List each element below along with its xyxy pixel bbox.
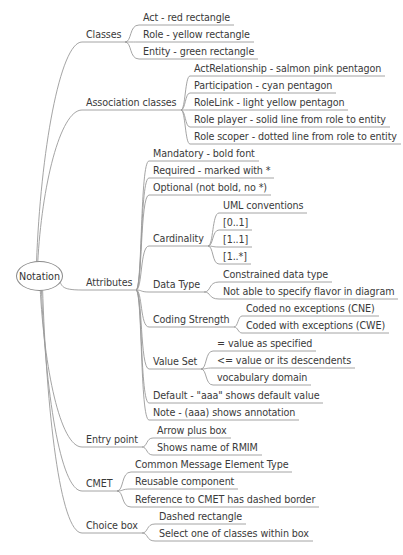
node-actrelationship-salmon-pink-pentagon[interactable]: ActRelationship - salmon pink pentagon xyxy=(194,63,381,75)
node-coded-no-exceptions-cne[interactable]: Coded no exceptions (CNE) xyxy=(246,303,375,315)
node-attributes[interactable]: Attributes xyxy=(86,277,132,289)
connector-line xyxy=(41,287,82,491)
node-required-marked-with[interactable]: Required - marked with * xyxy=(153,165,270,177)
node-role-yellow-rectangle[interactable]: Role - yellow rectangle xyxy=(143,29,250,41)
node-entity-green-rectangle[interactable]: Entity - green rectangle xyxy=(143,46,254,58)
connector-line xyxy=(201,351,213,369)
node-reusable-component[interactable]: Reusable component xyxy=(135,476,234,488)
node-cmet[interactable]: CMET xyxy=(86,478,113,490)
node-cardinality[interactable]: Cardinality xyxy=(153,233,204,245)
connector-line xyxy=(142,447,153,455)
connector-line xyxy=(125,42,139,59)
node-default-aaa-shows-default-value[interactable]: Default - "aaa" shows default value xyxy=(153,390,319,402)
node-rolelink-light-yellow-pentagon[interactable]: RoleLink - light yellow pentagon xyxy=(194,97,344,109)
node-participation-cyan-pentagon[interactable]: Participation - cyan pentagon xyxy=(194,80,332,92)
connector-line xyxy=(142,533,155,541)
connector-line xyxy=(204,292,219,299)
node-act-red-rectangle[interactable]: Act - red rectangle xyxy=(143,12,230,24)
connector-line xyxy=(208,213,219,246)
node-shows-name-of-rmim[interactable]: Shows name of RMIM xyxy=(157,442,258,454)
node-constrained-data-type[interactable]: Constrained data type xyxy=(223,269,328,281)
node-select-one-of-classes-within-box[interactable]: Select one of classes within box xyxy=(159,528,309,540)
node-1[interactable]: [1..*] xyxy=(223,251,247,263)
node-choice-box[interactable]: Choice box xyxy=(86,520,138,532)
node-0-1[interactable]: [0..1] xyxy=(223,217,248,229)
connector-line xyxy=(43,287,83,533)
mind-map-canvas: Notation Select one of classes within bo… xyxy=(0,0,403,555)
root-node-notation[interactable]: Notation xyxy=(16,261,63,291)
node-mandatory-bold-font[interactable]: Mandatory - bold font xyxy=(153,148,255,160)
node-note-aaa-shows-annotation[interactable]: Note - (aaa) shows annotation xyxy=(153,407,295,419)
connector-line xyxy=(201,369,213,385)
node-1-1[interactable]: [1..1] xyxy=(223,234,248,246)
connector-line xyxy=(181,76,190,110)
node-common-message-element-type[interactable]: Common Message Element Type xyxy=(135,459,288,471)
root-node-label: Notation xyxy=(19,271,60,282)
connector-line xyxy=(117,472,131,491)
node-data-type[interactable]: Data Type xyxy=(153,279,200,291)
connector-line xyxy=(142,438,153,447)
connector-line xyxy=(181,110,190,144)
node-role-player-solid-line-from-role-to-enti[interactable]: Role player - solid line from role to en… xyxy=(194,114,386,126)
node-role-scoper-dotted-line-from-role-to-ent[interactable]: Role scoper - dotted line from role to e… xyxy=(194,131,397,143)
node-optional-not-bold-no[interactable]: Optional (not bold, no *) xyxy=(153,182,267,194)
node-not-able-to-specify-flavor-in-diagram[interactable]: Not able to specify flavor in diagram xyxy=(223,286,394,298)
connector-line xyxy=(59,281,82,290)
node-vocabulary-domain[interactable]: vocabulary domain xyxy=(217,372,307,384)
connector-line xyxy=(117,491,131,507)
node-reference-to-cmet-has-dashed-border[interactable]: Reference to CMET has dashed border xyxy=(135,494,315,506)
connector-line xyxy=(204,282,219,292)
node-association-classes[interactable]: Association classes xyxy=(86,97,177,109)
connector-line xyxy=(234,327,242,333)
node-classes[interactable]: Classes xyxy=(86,29,121,41)
node-value-as-specified[interactable]: = value as specified xyxy=(217,338,312,350)
connector-line xyxy=(37,42,83,263)
node-arrow-plus-box[interactable]: Arrow plus box xyxy=(157,425,227,437)
node-coding-strength[interactable]: Coding Strength xyxy=(153,314,230,326)
node-coded-with-exceptions-cwe[interactable]: Coded with exceptions (CWE) xyxy=(246,320,385,332)
connector-line xyxy=(142,524,155,533)
connector-line xyxy=(234,316,242,327)
connector-line xyxy=(208,246,219,264)
node-value-set[interactable]: Value Set xyxy=(153,356,197,368)
node-entry-point[interactable]: Entry point xyxy=(86,434,138,446)
connector-line xyxy=(125,25,139,42)
connector-line xyxy=(38,110,82,263)
node-value-or-its-descendents[interactable]: <= value or its descendents xyxy=(217,355,351,367)
node-dashed-rectangle[interactable]: Dashed rectangle xyxy=(159,511,242,523)
node-uml-conventions[interactable]: UML conventions xyxy=(223,200,303,212)
